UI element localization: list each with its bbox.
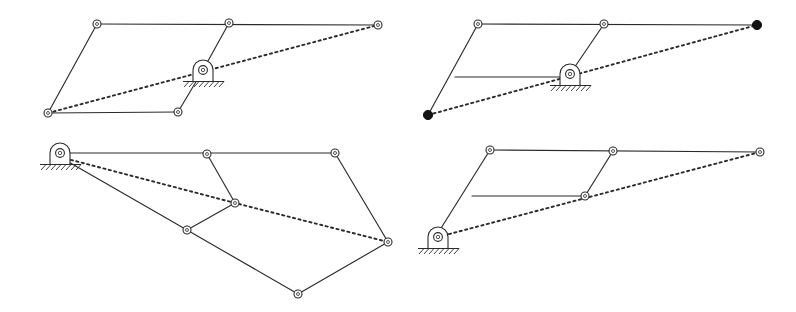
ground-pivot-circle (199, 66, 208, 75)
center-joint-outer (231, 199, 239, 207)
upper-right-joint (331, 149, 339, 157)
upper-mid-joint (600, 20, 608, 28)
upper-right-joint-outer (331, 149, 339, 157)
bottom-joint (294, 290, 302, 298)
hatch-line (576, 86, 581, 92)
bottom-left-mechanism (40, 143, 392, 298)
upper-left-joint-outer (93, 20, 101, 28)
bottom-joint-outer (294, 290, 302, 298)
ground-hatching (551, 86, 591, 92)
top-left-mechanism (44, 19, 382, 117)
upper-mid-joint-outer (600, 20, 608, 28)
ground-pivot-circle (434, 233, 443, 242)
mid-right-joint (581, 192, 589, 200)
upper-left-joint (93, 20, 101, 28)
mechanism-diagram-svg (0, 0, 796, 312)
hatch-line (184, 82, 189, 88)
hatch-line (429, 249, 434, 255)
hatch-line (199, 82, 204, 88)
left-lower-joint (183, 226, 191, 234)
hatch-line (51, 165, 56, 171)
link-left-side (428, 24, 478, 115)
hatch-line (449, 249, 454, 255)
upper-left-joint-outer (474, 20, 482, 28)
hatch-line (566, 86, 571, 92)
hatch-line (556, 86, 561, 92)
link-top-bar (478, 24, 757, 25)
upper-right-joint-outer (374, 21, 382, 29)
link-left-to-bottom (187, 230, 298, 294)
link-left-side (438, 150, 490, 233)
upper-mid-joint (609, 147, 617, 155)
link-top-bar (490, 150, 760, 152)
coupler-trace-polyline (60, 157, 388, 242)
ground-pivot (418, 227, 459, 254)
upper-mid-joint (203, 150, 211, 158)
hatch-line (219, 82, 224, 88)
ground-hatching (41, 165, 81, 171)
hatch-line (214, 82, 219, 88)
hatch-line (66, 165, 71, 171)
hatch-line (434, 249, 439, 255)
figure-sheet (0, 0, 796, 312)
right-lower-joint-outer (384, 238, 392, 246)
hatch-line (204, 82, 209, 88)
link-top-bar (97, 24, 378, 25)
ground-hatching (419, 249, 459, 255)
hatch-line (419, 249, 424, 255)
ground-pivot (183, 60, 224, 87)
traced-point-right (752, 20, 761, 29)
top-right-mechanism (423, 20, 761, 120)
upper-mid-joint-outer (203, 150, 211, 158)
hatch-line (444, 249, 449, 255)
center-joint (231, 199, 239, 207)
link-upper-connector (207, 154, 235, 203)
ground-hatching (184, 82, 224, 88)
hatch-line (46, 165, 51, 171)
hatch-line (551, 86, 556, 92)
right-lower-joint (384, 238, 392, 246)
hatch-line (61, 165, 66, 171)
link-right-side (335, 153, 388, 242)
hatch-line (439, 249, 444, 255)
lower-mid-joint (174, 108, 182, 116)
upper-mid-joint-outer (609, 147, 617, 155)
left-lower-joint-outer (183, 226, 191, 234)
upper-mid-joint-outer (225, 19, 233, 27)
hatch-line (41, 165, 46, 171)
hatch-line (586, 86, 591, 92)
lower-mid-joint-outer (174, 108, 182, 116)
ground-pivot (40, 143, 81, 170)
upper-left-joint-outer (486, 146, 494, 154)
hatch-line (561, 86, 566, 92)
hatch-line (424, 249, 429, 255)
mid-right-joint-outer (581, 192, 589, 200)
bottom-right-mechanism (418, 146, 764, 254)
hatch-line (56, 165, 61, 171)
upper-mid-joint (225, 19, 233, 27)
hatch-line (581, 86, 586, 92)
upper-right-joint (756, 148, 764, 156)
link-bottom-to-right (298, 242, 388, 294)
upper-right-joint-outer (756, 148, 764, 156)
hatch-line (454, 249, 459, 255)
coupler-trace (438, 152, 760, 237)
hatch-line (209, 82, 214, 88)
hatch-line (571, 86, 576, 92)
link-crank (585, 151, 613, 196)
lower-left-joint-outer (44, 109, 52, 117)
link-bottom-bar (48, 112, 178, 113)
lower-left-joint (44, 109, 52, 117)
link-left-side (48, 24, 97, 113)
upper-left-joint (486, 146, 494, 154)
upper-left-joint (474, 20, 482, 28)
ground-pivot-circle (56, 149, 65, 158)
ground-pivot-circle (566, 70, 575, 79)
link-ground-to-left (60, 157, 187, 230)
traced-point-left (423, 110, 432, 119)
link-center-to-left (187, 203, 235, 230)
upper-right-joint (374, 21, 382, 29)
coupler-trace (428, 25, 757, 115)
